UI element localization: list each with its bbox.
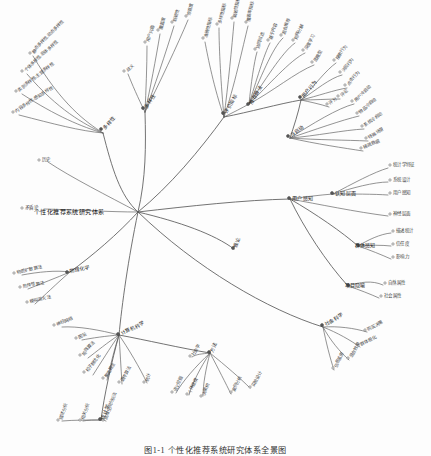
leaf-node-marker — [344, 84, 346, 86]
root-label: 个性化推荐系统研究体系 — [34, 209, 104, 215]
leaf-node-marker — [15, 90, 17, 92]
tree-edge — [290, 199, 358, 246]
leaf-node-marker — [79, 354, 81, 356]
branch-label: 项目隐喻 — [345, 283, 366, 288]
figure-canvas: 个性化推荐系统研究体系多样性静态多样性-动态多样性个体多样性-总体多样性类别多样… — [0, 0, 431, 456]
leaf-label: 社会属性 — [384, 294, 401, 299]
tree-edge — [119, 212, 138, 335]
radial-dendrogram — [0, 0, 431, 456]
leaf-node-marker — [389, 179, 391, 181]
branch-label: 用户感知 — [292, 196, 313, 201]
tree-edge — [70, 212, 138, 272]
leaf-node-marker — [326, 103, 328, 105]
leaf-node-marker — [364, 329, 366, 331]
branch-node-marker — [117, 333, 120, 336]
tree-edge — [138, 117, 224, 212]
leaf-label: 统计学特征 — [393, 163, 414, 168]
tree-edge — [138, 112, 145, 212]
branch-node-marker — [331, 192, 334, 195]
tree-edge — [27, 74, 103, 133]
leaf-node-marker — [380, 295, 382, 297]
leaf-node-marker — [365, 137, 367, 139]
leaf-node-marker — [19, 286, 21, 288]
leaf-label: 影响力 — [396, 255, 409, 260]
leaf-label: 用户感知 — [393, 191, 410, 196]
tree-edge — [348, 286, 379, 298]
leaf-node-marker — [392, 230, 394, 232]
leaf-node-marker — [360, 147, 362, 149]
figure-caption: 图1-1 个性化推荐系统研究体系全景图 — [0, 443, 431, 455]
leaf-node-marker — [351, 100, 353, 102]
leaf-label: 信任度 — [396, 242, 409, 247]
tree-edge — [323, 327, 334, 370]
leaf-node-marker — [356, 112, 358, 114]
tree-edge — [290, 199, 348, 286]
leaf-node-marker — [38, 159, 40, 161]
leaf-node-marker — [123, 70, 125, 72]
leaf-node-marker — [26, 301, 28, 303]
leaf-node-marker — [392, 243, 394, 245]
leaf-label: 矛盾论 — [25, 206, 38, 211]
leaf-node-marker — [21, 207, 23, 209]
leaf-node-marker — [389, 213, 391, 215]
leaf-node-marker — [13, 272, 15, 274]
leaf-node-marker — [83, 371, 85, 373]
tree-edge — [358, 246, 391, 259]
tree-edge — [62, 327, 119, 335]
leaf-node-marker — [384, 282, 386, 284]
leaf-node-marker — [75, 337, 77, 339]
leaf-node-marker — [389, 192, 391, 194]
branch-node-marker — [66, 271, 69, 274]
branch-node-marker — [288, 197, 291, 200]
tree-edge — [128, 74, 145, 112]
leaf-node-marker — [339, 71, 341, 73]
leaf-node-marker — [12, 111, 14, 113]
tree-edge — [224, 100, 301, 117]
leaf-node-marker — [361, 125, 363, 127]
tree-edge — [138, 212, 234, 249]
branch-node-marker — [287, 135, 290, 138]
tree-edge — [290, 104, 354, 138]
tree-edge — [103, 133, 138, 212]
leaf-node-marker — [389, 164, 391, 166]
leaf-node-marker — [392, 256, 394, 258]
tree-edge — [210, 353, 231, 394]
tree-edge — [138, 199, 290, 212]
tree-edge — [301, 100, 329, 107]
leaf-label: 描述统计 — [396, 229, 413, 234]
tree-edge — [138, 212, 323, 327]
leaf-node-marker — [29, 52, 31, 54]
leaf-node-marker — [21, 70, 23, 72]
leaf-node-marker — [337, 95, 339, 97]
leaf-label: 神经层面 — [393, 212, 410, 217]
leaf-node-marker — [53, 324, 55, 326]
tree-edge — [48, 162, 138, 212]
leaf-label: 历史 — [42, 158, 50, 163]
branch-node-marker — [321, 324, 324, 327]
leaf-label: 自然属性 — [388, 281, 405, 286]
leaf-label: 系统设计 — [393, 178, 410, 183]
branch-label: 群体感知 — [355, 243, 376, 248]
tree-edge — [210, 353, 250, 388]
branch-label: 认知层面 — [335, 191, 356, 196]
tree-edge — [323, 327, 367, 332]
